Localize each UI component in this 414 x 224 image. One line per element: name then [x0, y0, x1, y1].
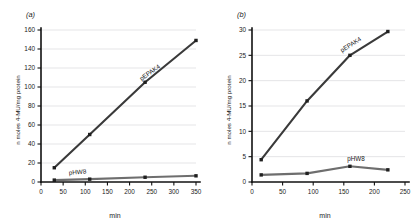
series-marker-phw8 [305, 172, 308, 175]
panel-b-ytick-5: 5 [242, 153, 246, 160]
panel-a-xtick-50: 50 [60, 188, 68, 195]
panel-b: 051015202530050100150200250 (b) min n mo… [207, 0, 414, 224]
panel-b-ytick-20: 20 [239, 77, 247, 84]
series-marker-phw8 [386, 168, 389, 171]
panel-a-ytick-140: 140 [24, 45, 35, 52]
series-marker-phw8 [259, 173, 262, 176]
panel-a-label: (a) [26, 10, 36, 19]
panel-b-label: (b) [237, 10, 247, 19]
panel-b-axes [249, 28, 410, 186]
panel-a-xtick-300: 300 [169, 188, 180, 195]
panel-b-ytick-0: 0 [242, 178, 246, 185]
panel-a-xtick-250: 250 [146, 188, 157, 195]
panel-a-ytick-80: 80 [28, 102, 36, 109]
panel-b-ytick-30: 30 [239, 26, 247, 33]
series-marker-pepak4 [194, 39, 197, 42]
series-marker-pepak4 [259, 158, 262, 161]
panel-b-xtick-0: 0 [250, 188, 254, 195]
panel-a-ytick-0: 0 [31, 178, 35, 185]
panel-a-plot: 0204060801001201401600501001502002503003… [0, 0, 207, 224]
panel-a-ytick-20: 20 [28, 159, 36, 166]
series-marker-phw8 [348, 165, 351, 168]
series-marker-pepak4 [53, 166, 56, 169]
panel-a-xtick-350: 350 [191, 188, 202, 195]
panel-b-plot: 051015202530050100150200250 (b) min n mo… [207, 0, 414, 224]
panel-b-xtick-150: 150 [338, 188, 349, 195]
panel-a-series [53, 39, 198, 182]
panel-a-y-axis-title: n moles 4-MU/mg protein [14, 75, 21, 145]
panel-a: 0204060801001201401600501001502002503003… [0, 0, 207, 224]
figure-two-panel-kinetics: 0204060801001201401600501001502002503003… [0, 0, 414, 224]
panel-b-ytick-10: 10 [239, 128, 247, 135]
panel-a-x-axis-title: min [109, 212, 120, 219]
series-marker-phw8 [143, 176, 146, 179]
panel-a-xtick-0: 0 [39, 188, 43, 195]
panel-b-xtick-100: 100 [308, 188, 319, 195]
panel-a-xtick-100: 100 [80, 188, 91, 195]
series-marker-pepak4 [88, 133, 91, 136]
panel-a-ytick-60: 60 [28, 121, 36, 128]
panel-b-xtick-250: 250 [400, 188, 411, 195]
panel-b-xtick-50: 50 [279, 188, 287, 195]
series-line-pepak4 [54, 40, 196, 167]
panel-a-ytick-40: 40 [28, 140, 36, 147]
series-marker-pepak4 [143, 81, 146, 84]
series-marker-pepak4 [386, 30, 389, 33]
series-marker-pepak4 [305, 99, 308, 102]
panel-a-ytick-160: 160 [24, 26, 35, 33]
panel-b-gridlines [252, 30, 405, 157]
series-marker-pepak4 [348, 54, 351, 57]
series-marker-phw8 [88, 177, 91, 180]
series-line-phw8 [54, 176, 196, 180]
series-marker-phw8 [194, 174, 197, 177]
panel-b-y-axis-title: n moles 4-MU/mg protein [225, 75, 232, 145]
panel-a-ytick-120: 120 [24, 64, 35, 71]
panel-b-ytick-15: 15 [239, 102, 247, 109]
panel-b-xtick-200: 200 [369, 188, 380, 195]
panel-a-xtick-200: 200 [124, 188, 135, 195]
panel-a-tick-labels: 0204060801001201401600501001502002503003… [24, 26, 201, 195]
series-label-pepak4: pEPAK4 [339, 35, 363, 55]
panel-b-series [259, 30, 389, 177]
series-label-phw8: pHW8 [68, 167, 87, 177]
series-label-phw8: pHW8 [347, 155, 365, 163]
panel-a-gridlines [41, 30, 196, 163]
panel-a-xtick-150: 150 [102, 188, 113, 195]
series-line-pepak4 [261, 32, 388, 160]
series-line-phw8 [261, 166, 388, 175]
panel-b-ytick-25: 25 [239, 52, 247, 59]
panel-a-ytick-100: 100 [24, 83, 35, 90]
panel-b-x-axis-title: min [319, 212, 330, 219]
